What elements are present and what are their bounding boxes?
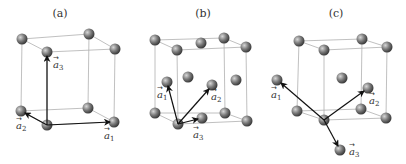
arrow-accent-icon: →: [211, 86, 217, 94]
vector-c1-arrow: [281, 83, 324, 120]
atom: [197, 113, 208, 124]
panel-a: (a) a1: [16, 7, 121, 143]
atom: [83, 103, 94, 114]
arrow-accent-icon: →: [53, 54, 59, 62]
atom: [292, 106, 303, 117]
atom: [337, 73, 348, 84]
atom: [219, 33, 230, 44]
atom: [172, 45, 183, 56]
arrow-accent-icon: →: [193, 124, 199, 132]
panel-c: (c): [271, 7, 393, 159]
atom: [42, 47, 53, 58]
atom: [356, 104, 367, 115]
atom: [150, 35, 161, 46]
atom: [357, 34, 368, 45]
vectors-a: [25, 56, 110, 125]
atom: [109, 117, 120, 128]
arrow-accent-icon: →: [369, 90, 375, 98]
vector-c3-arrow: [324, 120, 338, 146]
atom: [150, 108, 161, 119]
panel-b: (b): [150, 7, 253, 142]
atom: [294, 36, 305, 47]
arrow-accent-icon: →: [271, 84, 277, 92]
panel-b-label: (b): [195, 7, 211, 20]
atom: [242, 116, 253, 127]
atom: [110, 44, 121, 55]
panel-a-label: (a): [52, 7, 67, 20]
vector-labels-a: a1 → a2 → a3 →: [16, 54, 114, 143]
atom: [183, 72, 194, 83]
atom: [231, 75, 242, 86]
atom: [196, 38, 207, 49]
arrow-accent-icon: →: [349, 141, 355, 149]
atom: [162, 77, 173, 88]
atom: [382, 42, 393, 53]
arrow-accent-icon: →: [16, 115, 22, 123]
atom: [220, 108, 231, 119]
lattice-figure: (a) a1: [0, 0, 406, 164]
vector-a1-arrow: [168, 86, 178, 124]
atom: [319, 45, 330, 56]
atom: [84, 29, 95, 40]
atom: [241, 42, 252, 53]
cube-edges-a: [21, 34, 115, 125]
arrow-accent-icon: →: [157, 84, 163, 92]
atom: [381, 113, 392, 124]
atom: [335, 145, 346, 156]
arrow-accent-icon: →: [104, 125, 110, 133]
atom: [17, 34, 28, 45]
panel-c-label: (c): [329, 7, 344, 20]
vector-a1-arrow: [47, 122, 110, 125]
vector-a2-arrow: [25, 113, 47, 125]
